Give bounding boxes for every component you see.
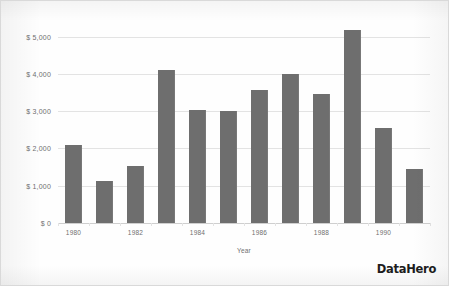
bar[interactable] bbox=[127, 166, 145, 223]
bar[interactable] bbox=[251, 90, 269, 223]
x-axis-tick-label: 1982 bbox=[128, 229, 143, 236]
bar[interactable] bbox=[375, 128, 393, 223]
x-axis-tick-label: 1988 bbox=[314, 229, 329, 236]
bar-slot bbox=[399, 18, 430, 223]
y-axis-tick-label: $ 5,000 bbox=[26, 33, 51, 40]
bar-slot: 1980 bbox=[58, 18, 89, 223]
x-axis-tick-mark bbox=[213, 223, 214, 226]
x-axis-tick-mark bbox=[275, 223, 276, 226]
bar[interactable] bbox=[189, 110, 207, 223]
bar-slot bbox=[89, 18, 120, 223]
bar[interactable] bbox=[96, 181, 114, 223]
bar-slot: 1990 bbox=[368, 18, 399, 223]
bar[interactable] bbox=[344, 30, 362, 223]
x-axis-tick-mark bbox=[120, 223, 121, 226]
x-axis-title: Year bbox=[58, 247, 430, 254]
y-axis-tick-label: $ 0 bbox=[41, 220, 51, 227]
y-axis-tick-label: $ 1,000 bbox=[26, 182, 51, 189]
bar[interactable] bbox=[158, 70, 176, 223]
bar[interactable] bbox=[65, 145, 83, 223]
bar-slot bbox=[213, 18, 244, 223]
x-axis-tick-mark bbox=[244, 223, 245, 226]
x-axis-tick-mark bbox=[368, 223, 369, 226]
x-axis-tick-mark bbox=[151, 223, 152, 226]
x-axis-tick-label: 1984 bbox=[190, 229, 205, 236]
y-axis-tick-label: $ 2,000 bbox=[26, 145, 51, 152]
x-axis-tick-mark bbox=[58, 223, 59, 226]
x-axis-tick-mark bbox=[182, 223, 183, 226]
bar-slot: 1984 bbox=[182, 18, 213, 223]
x-axis-tick-mark bbox=[430, 223, 431, 226]
bar-group: 198019821984198619881990 bbox=[58, 18, 430, 223]
y-axis-tick-label: $ 3,000 bbox=[26, 108, 51, 115]
y-axis-tick-label: $ 4,000 bbox=[26, 70, 51, 77]
x-axis-tick-mark bbox=[306, 223, 307, 226]
x-axis-tick-mark bbox=[399, 223, 400, 226]
x-axis-tick-mark bbox=[337, 223, 338, 226]
bar-slot: 1988 bbox=[306, 18, 337, 223]
datahero-logo: DataHero bbox=[377, 262, 436, 276]
x-axis-tick-label: 1986 bbox=[252, 229, 267, 236]
bar[interactable] bbox=[313, 94, 331, 223]
bar[interactable] bbox=[282, 74, 300, 223]
bar[interactable] bbox=[220, 111, 238, 223]
x-axis-tick-mark bbox=[89, 223, 90, 226]
bar-slot bbox=[275, 18, 306, 223]
bar-slot bbox=[337, 18, 368, 223]
bar[interactable] bbox=[406, 169, 424, 223]
chart-card: $ 0$ 1,000$ 2,000$ 3,000$ 4,000$ 5,000 1… bbox=[0, 0, 449, 286]
bar-slot bbox=[151, 18, 182, 223]
plot-area: $ 0$ 1,000$ 2,000$ 3,000$ 4,000$ 5,000 1… bbox=[58, 18, 430, 223]
bar-slot: 1986 bbox=[244, 18, 275, 223]
x-axis-tick-label: 1980 bbox=[66, 229, 81, 236]
x-axis-tick-label: 1990 bbox=[376, 229, 391, 236]
bar-slot: 1982 bbox=[120, 18, 151, 223]
